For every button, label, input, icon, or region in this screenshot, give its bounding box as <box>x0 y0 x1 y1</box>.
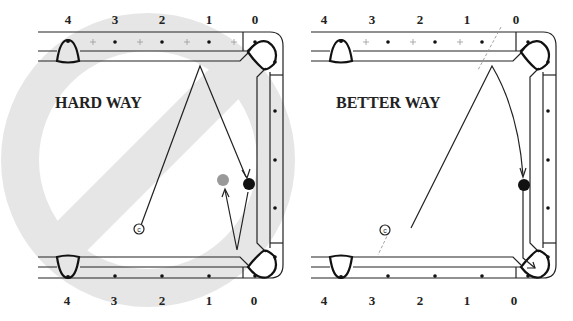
bottom-label-0: 0 <box>251 293 258 308</box>
object-ball-icon <box>243 178 255 190</box>
diagram-title-hard-way: HARD WAY <box>55 94 142 111</box>
top-label-0: 0 <box>252 12 259 27</box>
diagram-canvas: c 4 3 2 1 0 4 3 2 1 0 HARD WAY <box>0 0 573 321</box>
bottom-label-2: 2 <box>159 293 166 308</box>
bottom-label-3: 3 <box>111 293 118 308</box>
object-ball-icon <box>518 179 530 191</box>
top-label-3: 3 <box>369 12 376 27</box>
ghost-ball-icon <box>217 174 229 186</box>
bottom-label-1: 1 <box>464 293 471 308</box>
bottom-label-4: 4 <box>321 293 328 308</box>
top-label-2: 2 <box>159 12 166 27</box>
pocket-top-left-icon <box>330 40 352 63</box>
cue-ball-label: c <box>383 227 387 234</box>
bottom-label-2: 2 <box>417 293 424 308</box>
top-label-0: 0 <box>513 12 520 27</box>
top-label-1: 1 <box>464 12 471 27</box>
bottom-label-0: 0 <box>511 293 518 308</box>
pocket-top-right-icon <box>521 41 549 69</box>
diagram-title-better-way: BETTER WAY <box>336 94 441 111</box>
top-label-3: 3 <box>112 12 119 27</box>
top-label-4: 4 <box>321 12 328 27</box>
top-label-2: 2 <box>417 12 424 27</box>
table-right: c 4 3 2 1 0 4 3 2 1 0 BETTER WAY <box>311 12 556 308</box>
pocket-bottom-right-icon <box>521 251 549 278</box>
bottom-label-3: 3 <box>369 293 376 308</box>
top-label-4: 4 <box>65 12 72 27</box>
top-label-1: 1 <box>206 12 213 27</box>
bottom-label-4: 4 <box>64 293 71 308</box>
aim-line-dashed <box>478 27 501 70</box>
bottom-label-1: 1 <box>206 293 213 308</box>
cue-ball-label: c <box>137 226 141 233</box>
pocket-bottom-left-icon <box>330 256 352 279</box>
cue-path-line <box>411 66 523 228</box>
